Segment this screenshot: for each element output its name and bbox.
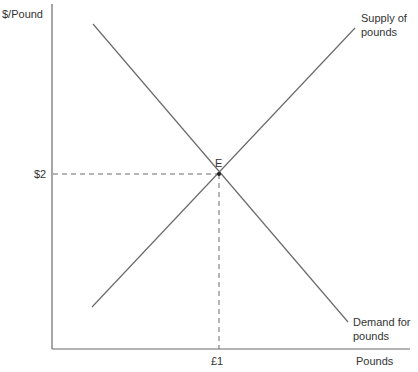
x-axis-label: Pounds [356,355,393,368]
demand-label-line1: Demand for [353,316,410,329]
y-axis-label: $/Pound [2,8,43,21]
supply-label-line1: Supply of [361,12,407,25]
equilibrium-label: E [215,157,222,170]
supply-label-line2: pounds [361,26,397,39]
price-tick-label: $2 [34,168,46,181]
quantity-tick-label: £1 [211,355,223,368]
equilibrium-point [217,172,221,176]
demand-label-line2: pounds [353,330,389,343]
